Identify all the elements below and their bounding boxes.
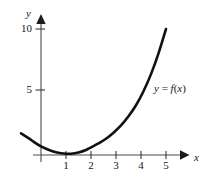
x-tick-label-2: 2 xyxy=(84,160,98,171)
equation-equals: = xyxy=(159,82,171,94)
x-tick-label-5: 5 xyxy=(159,160,173,171)
x-tick-label-4: 4 xyxy=(134,160,148,171)
y-tick-label-10: 10 xyxy=(10,23,32,34)
x-tick-label-3: 3 xyxy=(109,160,123,171)
curve-equation-annotation: y = f(x) xyxy=(154,83,186,94)
equation-close-paren: ) xyxy=(182,82,186,94)
x-axis-arrow-icon xyxy=(180,150,190,159)
function-curve xyxy=(21,29,166,154)
y-axis-label: y xyxy=(26,8,31,19)
x-tick-label-1: 1 xyxy=(59,160,73,171)
function-graph-figure: y x 10 5 1 2 3 4 5 y = f(x) xyxy=(0,0,210,184)
x-axis-label: x xyxy=(194,152,199,163)
y-tick-label-5: 5 xyxy=(10,84,32,95)
y-axis-arrow-icon xyxy=(36,14,45,24)
